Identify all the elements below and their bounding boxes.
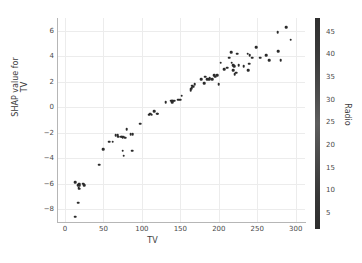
colorbar-gradient xyxy=(315,18,320,229)
scatter-point xyxy=(174,100,177,103)
scatter-point xyxy=(235,72,238,75)
colorbar-tick-label: 25 xyxy=(326,118,335,126)
gridline-horizontal xyxy=(58,82,305,83)
scatter-point xyxy=(117,135,120,138)
x-tick-label: 200 xyxy=(212,225,225,233)
scatter-point xyxy=(156,112,159,115)
x-tick-label: 100 xyxy=(135,225,148,233)
colorbar: 51015202530354045 Radio xyxy=(313,18,362,229)
gridline-horizontal xyxy=(58,56,305,57)
gridline-horizontal xyxy=(58,184,305,185)
scatter-point xyxy=(193,83,196,86)
x-tick-label: 300 xyxy=(289,225,302,233)
scatter-point xyxy=(277,31,280,34)
scatter-point xyxy=(122,154,125,157)
scatter-point xyxy=(192,86,195,89)
scatter-point xyxy=(102,148,105,151)
scatter-plot-area xyxy=(58,18,305,222)
colorbar-tick-label: 45 xyxy=(326,28,335,36)
scatter-point xyxy=(277,50,280,53)
scatter-point xyxy=(124,137,127,140)
scatter-point xyxy=(83,184,86,187)
scatter-point xyxy=(98,163,101,166)
scatter-point xyxy=(211,78,214,81)
scatter-point xyxy=(108,140,111,143)
scatter-point xyxy=(268,59,271,62)
gridline-vertical xyxy=(180,18,181,222)
x-tick-label: 150 xyxy=(174,225,187,233)
scatter-point xyxy=(230,51,233,54)
scatter-point xyxy=(77,202,80,205)
gridline-horizontal xyxy=(58,158,305,159)
scatter-point xyxy=(236,52,239,55)
gridline-horizontal xyxy=(58,31,305,32)
scatter-point xyxy=(132,133,135,136)
scatter-point xyxy=(251,56,254,59)
colorbar-tick-label: 20 xyxy=(326,141,335,149)
scatter-point xyxy=(285,26,288,29)
gridline-horizontal xyxy=(58,107,305,108)
y-tick-label: 2 xyxy=(50,78,54,86)
scatter-point xyxy=(255,46,258,49)
gridline-vertical xyxy=(142,18,143,222)
scatter-point xyxy=(122,149,125,152)
y-tick-label: −4 xyxy=(44,154,54,162)
scatter-point xyxy=(112,140,115,143)
scatter-point xyxy=(125,128,128,131)
scatter-point xyxy=(151,114,154,117)
x-axis-label-text: TV xyxy=(147,236,157,245)
x-tick-label: 250 xyxy=(251,225,264,233)
scatter-point xyxy=(248,63,251,66)
scatter-point xyxy=(131,149,134,152)
scatter-point xyxy=(259,56,262,59)
colorbar-tick-label: 5 xyxy=(326,209,330,217)
x-tick-label: 50 xyxy=(99,225,108,233)
scatter-point xyxy=(165,101,168,104)
scatter-point xyxy=(233,65,236,68)
scatter-point xyxy=(180,94,183,97)
gridline-vertical xyxy=(296,18,297,222)
y-tick-label: −8 xyxy=(44,205,54,213)
scatter-point xyxy=(179,98,182,101)
scatter-point xyxy=(78,188,81,191)
gridline-horizontal xyxy=(58,209,305,210)
colorbar-tick-label: 15 xyxy=(326,164,335,172)
scatter-point xyxy=(247,69,250,72)
y-tick-label: −6 xyxy=(44,180,54,188)
scatter-point xyxy=(79,184,82,187)
gridline-vertical xyxy=(219,18,220,222)
x-tick-label: 0 xyxy=(63,225,67,233)
colorbar-tick-label: 10 xyxy=(326,186,335,194)
x-axis-label: TV xyxy=(0,236,362,245)
y-axis-label: SHAP value for TV xyxy=(12,22,30,152)
scatter-point xyxy=(279,59,282,62)
scatter-point xyxy=(290,38,293,41)
scatter-point xyxy=(217,83,220,86)
scatter-point xyxy=(265,54,268,57)
scatter-point xyxy=(226,66,229,69)
colorbar-label: Radio xyxy=(343,85,352,145)
y-tick-label: 0 xyxy=(50,103,54,111)
colorbar-tick-label: 35 xyxy=(326,73,335,81)
scatter-point xyxy=(219,61,222,64)
y-tick-label: 6 xyxy=(50,27,54,35)
scatter-point xyxy=(200,78,203,81)
y-axis-label-line2: TV xyxy=(21,22,30,152)
scatter-point xyxy=(242,65,245,68)
scatter-point xyxy=(74,216,77,219)
x-axis-spine xyxy=(57,222,306,223)
gridline-horizontal xyxy=(58,133,305,134)
scatter-point xyxy=(228,56,231,59)
y-tick-label: 4 xyxy=(50,52,54,60)
figure-canvas: 050100150200250300 −8−6−4−20246 TV SHAP … xyxy=(0,0,362,263)
scatter-point xyxy=(216,74,219,77)
scatter-point xyxy=(139,123,142,126)
scatter-point xyxy=(203,82,206,85)
y-tick-label: −2 xyxy=(44,129,54,137)
scatter-point xyxy=(153,110,156,113)
gridline-vertical xyxy=(65,18,66,222)
colorbar-tick-label: 40 xyxy=(326,50,335,58)
gridline-vertical xyxy=(103,18,104,222)
scatter-point xyxy=(237,64,240,67)
colorbar-tick-label: 30 xyxy=(326,96,335,104)
